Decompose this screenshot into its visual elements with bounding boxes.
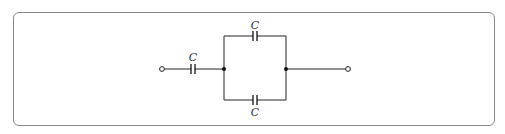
- label-bottom-capacitor: C: [251, 106, 260, 119]
- junction-right-icon: [284, 67, 288, 71]
- label-series-capacitor: C: [189, 51, 198, 64]
- label-top-capacitor: C: [251, 19, 260, 32]
- capacitor-bottom-icon: [253, 95, 257, 105]
- junction-left-icon: [222, 67, 226, 71]
- terminal-left-icon: [160, 67, 165, 72]
- capacitor-series-icon: [191, 64, 195, 74]
- capacitor-top-icon: [253, 31, 257, 41]
- terminal-right-icon: [346, 67, 351, 72]
- circuit-diagram: C C C: [0, 0, 505, 134]
